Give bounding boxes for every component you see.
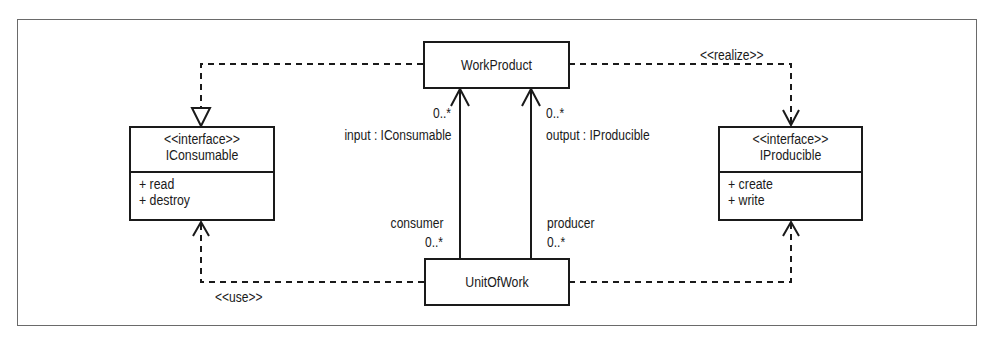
producer-role-label: producer [547,215,595,231]
use-label: <<use>> [215,289,263,305]
producer-multiplicity: 0..* [547,234,565,250]
interface-header: <<interface>> IProducible [728,128,852,171]
interface-header: <<interface>> IConsumable [140,128,265,171]
consumer-multiplicity: 0..* [425,234,443,250]
operation-write: + write [728,192,845,208]
class-unitofwork[interactable]: UnitOfWork [424,258,570,306]
interface-iproducible[interactable]: <<interface>> IProducible + create + wri… [718,126,863,221]
interface-name: IProducible [728,147,852,163]
class-workproduct[interactable]: WorkProduct [423,41,570,89]
input-target-multiplicity: 0..* [433,105,451,121]
input-association-line [451,89,469,258]
realize-dependency-connector [569,64,799,125]
stereotype-label: <<interface>> [728,131,852,147]
class-name: WorkProduct [434,43,560,87]
output-association-line [522,89,540,258]
realization-connector-iconsumable [192,64,423,126]
operation-read: + read [139,176,257,192]
operations-compartment: + read + destroy [131,171,273,208]
stereotype-label: <<interface>> [140,131,265,147]
operation-create: + create [728,176,845,192]
hollow-triangle-arrow-icon [192,108,210,126]
input-role-label: input : IConsumable [345,127,452,143]
interface-iconsumable[interactable]: <<interface>> IConsumable + read + destr… [129,126,275,221]
output-target-multiplicity: 0..* [546,105,564,121]
class-name: UnitOfWork [435,260,560,304]
output-role-label: output : IProducible [546,127,650,143]
interface-name: IConsumable [140,147,265,163]
realize-label: <<realize>> [700,47,764,63]
operations-compartment: + create + write [720,171,861,208]
consumer-role-label: consumer [390,215,443,231]
use-dependency-connector [193,222,424,282]
producer-dependency-connector [569,222,799,282]
operation-destroy: + destroy [139,192,257,208]
